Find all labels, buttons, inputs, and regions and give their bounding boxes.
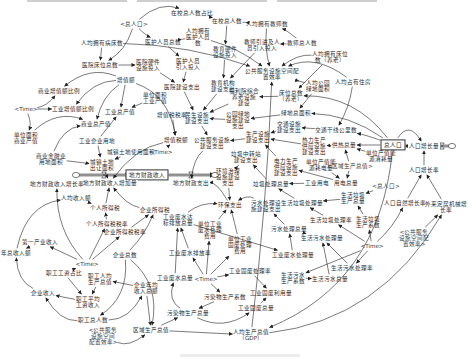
variable-eldercare-beds: 床位总数 （养老） bbox=[279, 90, 303, 102]
variable-natural-growth: 人口自然增长率 bbox=[384, 200, 426, 206]
causal-arrow bbox=[16, 258, 33, 289]
variable-beds-pc: 人均拥有病床数 bbox=[81, 40, 123, 46]
causal-arrow bbox=[312, 113, 383, 137]
causal-arrow bbox=[181, 39, 185, 40]
causal-arrow bbox=[28, 114, 30, 131]
causal-arrow bbox=[251, 115, 281, 119]
variable-corp-tax: 企业所得税 bbox=[140, 207, 170, 213]
shadow-variable-pop-shadow-right: <总人口> bbox=[372, 183, 399, 189]
flow-rate-fiscal-outflow: 地方财政支出 bbox=[172, 180, 210, 186]
causal-arrow bbox=[167, 145, 170, 148]
system-dynamics-diagram: 在校总人数占比在校总人数人均拥有教师数<总人口>医护人员总数人均拥有 医护人员 … bbox=[0, 0, 476, 359]
variable-pollutant-total: 污染物生产总量 bbox=[167, 310, 209, 316]
variable-medstaff-pc: 人均拥有 医护人员 数 bbox=[186, 28, 210, 47]
variable-livelihood-exp: 民生设施 建设支出 bbox=[185, 112, 209, 124]
variable-heat-exp: 热力生产 供应设施 建设支出 bbox=[302, 137, 326, 156]
variable-hosp-hw: 医院硬件 设施投入 bbox=[136, 59, 160, 71]
variable-dom-garbage-total: 生活垃圾 生产总量 bbox=[341, 192, 365, 204]
causal-arrow bbox=[231, 210, 237, 234]
variable-industry-land: 工业企业用地 bbox=[79, 138, 115, 144]
causal-arrow bbox=[89, 229, 104, 260]
variable-dom-sewage-treated: 生活污水处理量 bbox=[301, 235, 343, 241]
causal-arrow bbox=[230, 139, 245, 141]
causal-arrow bbox=[298, 81, 305, 83]
causal-arrow bbox=[169, 331, 232, 334]
variable-sewage-total: 污水处理总量 bbox=[271, 226, 307, 232]
variable-value-added: 增值额 bbox=[117, 77, 135, 83]
variable-worker-wage: 职工平均 工资收入 bbox=[76, 296, 100, 308]
causal-arrow bbox=[92, 287, 96, 294]
variable-production-exp: 生产设施 建设支出 bbox=[246, 131, 270, 143]
causal-arrow bbox=[65, 72, 117, 86]
causal-arrow bbox=[121, 85, 125, 108]
variable-vat-rate: 增值税税率 bbox=[157, 112, 187, 118]
variable-commerce-land: 商业金融业 用地面积 bbox=[36, 153, 66, 165]
causal-arrow bbox=[347, 171, 349, 179]
causal-arrow bbox=[219, 210, 227, 219]
variable-park-pc: 人均公园 绿地面积 bbox=[306, 80, 330, 92]
variable-energy-intensity: 单位产值能 源消耗量 bbox=[366, 150, 396, 162]
variable-annual-income: 年总收入额 bbox=[1, 250, 31, 256]
causal-arrow bbox=[161, 318, 178, 326]
causal-arrow bbox=[261, 298, 267, 304]
causal-arrow bbox=[229, 188, 230, 200]
variable-pop-growth-rate: 人口增长率 bbox=[409, 167, 439, 173]
variable-grp: 区域生产总值 bbox=[133, 327, 169, 333]
causal-arrow bbox=[274, 214, 285, 225]
causal-arrow bbox=[211, 284, 220, 293]
variable-teachers-pc: 人均拥有教师数 bbox=[246, 21, 288, 27]
causal-arrow bbox=[106, 188, 109, 204]
causal-arrow bbox=[217, 275, 229, 277]
shadow-variable-ps-eff-shadow-right: <公共服务 设施空间配 置效率> bbox=[399, 229, 429, 248]
variable-solid-total: 工业固废总量 bbox=[238, 305, 274, 311]
variable-transport-exp: 交通设施 建设支出 bbox=[277, 121, 301, 133]
causal-arrow bbox=[210, 119, 225, 120]
variable-worker-output: 职工人均 生产总值 bbox=[88, 273, 112, 285]
flow-rate-pop-growth-flow: 人口增长量 bbox=[408, 143, 440, 149]
variable-power-total: 用电总量 bbox=[334, 180, 358, 186]
causal-arrow bbox=[56, 296, 75, 300]
variable-primary-income: 第一产业收入 bbox=[22, 239, 58, 245]
variable-unit-commerce: 单位面积 商业产值 bbox=[14, 132, 38, 144]
variable-transfer-exp: 垃圾中转站 建设支出 bbox=[231, 151, 261, 163]
causal-arrow bbox=[427, 175, 442, 200]
variable-env-exp: 环保支出 bbox=[218, 202, 242, 208]
variable-edu-hw: 教育硬件 设施投入 bbox=[213, 46, 237, 58]
causal-arrow bbox=[90, 203, 92, 204]
causal-arrow bbox=[357, 133, 380, 140]
causal-arrow bbox=[271, 131, 276, 133]
variable-ind-sewage-total: 工业废水总量 bbox=[157, 275, 193, 281]
variable-income-tax: 个人所得税 bbox=[90, 205, 120, 211]
variable-park-exp: 公园绿地 设施建设 支出 bbox=[226, 111, 250, 130]
causal-arrow bbox=[147, 296, 151, 326]
causal-arrow bbox=[290, 234, 293, 251]
causal-arrow bbox=[199, 302, 214, 309]
causal-arrow bbox=[425, 215, 438, 227]
shadow-variable-time-left: <Time> bbox=[14, 106, 37, 112]
causal-arrow bbox=[68, 278, 82, 295]
variable-wage-ratio: 职工工资占比 bbox=[46, 270, 82, 276]
variable-commerce-output: 商业总产值 bbox=[81, 121, 111, 127]
variable-housing-pc: 人均占有住房 bbox=[335, 79, 371, 85]
variable-ind-sewage-treated: 工业废水处理量 bbox=[272, 252, 314, 258]
causal-arrow bbox=[184, 92, 193, 111]
variable-sewage-exp: 污水处理设 施建设支出 bbox=[251, 200, 281, 212]
causal-arrow bbox=[302, 128, 315, 129]
causal-arrow bbox=[193, 258, 203, 275]
causal-arrow bbox=[332, 173, 340, 179]
variable-eldercare-beds-pc: 人均拥有床位 数（养老） bbox=[312, 51, 348, 63]
causal-arrow bbox=[100, 48, 101, 61]
causal-arrow bbox=[282, 55, 312, 66]
causal-arrow bbox=[115, 157, 121, 160]
causal-arrow bbox=[265, 145, 276, 156]
causal-arrow bbox=[183, 72, 186, 83]
causal-arrow bbox=[408, 175, 422, 199]
causal-arrow bbox=[366, 191, 373, 194]
variable-students: 在校总人数 bbox=[212, 18, 242, 24]
variable-green-total: 绿地总面积 bbox=[281, 110, 311, 116]
causal-arrow bbox=[131, 215, 148, 228]
causal-arrow bbox=[188, 203, 217, 212]
causal-arrow bbox=[67, 161, 90, 164]
causal-arrow bbox=[238, 165, 239, 167]
variable-medstaff: 医护人员总数 bbox=[145, 39, 181, 45]
